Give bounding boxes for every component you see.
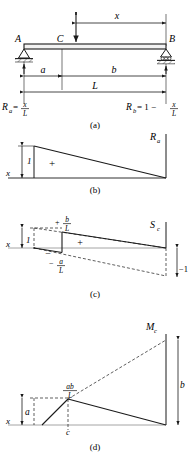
reaction-a-equals: = — [13, 102, 18, 112]
panel-c-diagram-label: S — [150, 219, 155, 230]
panel-d-rising-dashed — [68, 340, 166, 399]
panel-d-peak-fraction: ab L — [63, 382, 77, 400]
reaction-b-formula: R b = 1 − x L — [125, 100, 178, 118]
panel-c-lower-fraction: − a L — [49, 257, 65, 275]
dimension-x-label: x — [114, 10, 120, 21]
caption-a: (a) — [90, 120, 100, 130]
panel-c-diagram-label-sub: c — [157, 225, 160, 232]
influence-line-figure: x A B C — [0, 0, 190, 458]
panel-d-peak-denominator: L — [67, 391, 72, 400]
panel-c-upper-sign: + — [55, 218, 60, 227]
support-a-pin — [15, 49, 33, 62]
panel-d-point-c-label: c — [66, 427, 70, 437]
panel-d-diagram-label-sub: c — [154, 327, 157, 334]
reaction-a-subscript: a — [9, 107, 12, 114]
reaction-a-formula: R a = x L — [1, 100, 29, 118]
panel-b-unit-label: 1 — [27, 156, 32, 166]
reaction-b-denominator: L — [171, 109, 176, 118]
panel-d-axis-label: x — [5, 416, 10, 426]
panel-c-plus-sign: + — [77, 237, 83, 248]
panel-d-dimension-a-label: a — [25, 407, 30, 417]
panel-b-plus-sign: + — [49, 157, 55, 169]
panel-c-lower-sign: − — [49, 259, 54, 268]
panel-d: a x b ab L c M c (d) — [5, 321, 185, 452]
panel-c-lower-denominator: L — [58, 266, 63, 275]
caption-b: (b) — [90, 185, 101, 195]
caption-d: (d) — [90, 442, 101, 452]
support-a-label: A — [14, 33, 22, 44]
support-b-roller — [157, 49, 175, 64]
caption-c: (c) — [90, 289, 100, 299]
panel-b-axis-label: x — [5, 168, 10, 178]
panel-d-dimension-b-label: b — [180, 380, 185, 390]
panel-c-unit-label: 1 — [26, 235, 31, 245]
dimension-b-label: b — [112, 64, 117, 75]
panel-d-left-segment — [42, 399, 68, 425]
support-b-label: B — [169, 33, 175, 44]
panel-c-upper-fraction: + b L — [55, 215, 71, 233]
panel-c-bottom-ordinate-label: −1 — [179, 264, 188, 274]
dimension-a-label: a — [41, 64, 46, 75]
panel-d-right-segment — [68, 399, 166, 425]
panel-c-axis-label: x — [5, 239, 10, 249]
figure-canvas: x A B C — [0, 0, 190, 458]
panel-c-upper-denominator: L — [64, 224, 69, 233]
reaction-a-symbol: R — [1, 102, 8, 112]
panel-b: 1 x + R a (b) — [5, 131, 166, 195]
section-c-label: C — [57, 33, 64, 44]
panel-c-minus-sign: − — [45, 248, 51, 259]
beam — [24, 44, 166, 49]
dimension-x — [76, 14, 166, 46]
panel-b-diagram-label: R — [149, 131, 156, 142]
dimension-L-label: L — [91, 80, 98, 91]
reaction-a-denominator: L — [22, 109, 27, 118]
panel-a: x A B C — [1, 10, 178, 130]
panel-c: 1 x + b L − a L + − −1 S c (c) — [5, 215, 188, 299]
reaction-b-symbol: R — [125, 102, 132, 112]
reaction-b-equals: = 1 − — [137, 102, 156, 112]
panel-c-lower-dashed — [34, 248, 166, 276]
panel-b-diagram-label-sub: a — [157, 137, 160, 144]
